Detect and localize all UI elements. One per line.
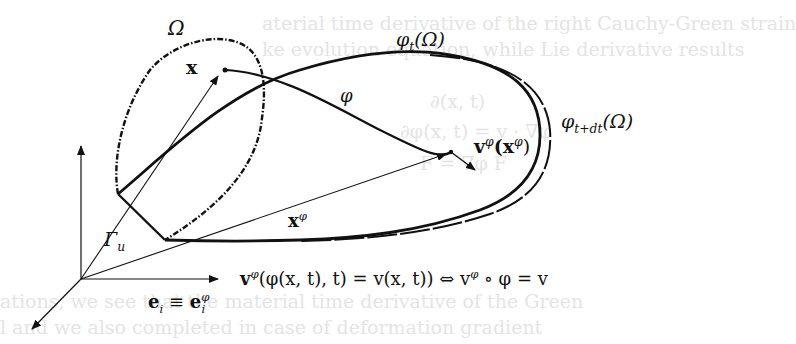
label-phi-t-dt-omega: φt+dt(Ω) (561, 110, 633, 136)
mapping-phi-curve (225, 70, 451, 155)
point-x-phi (449, 150, 453, 154)
phi-curve-tail (451, 152, 475, 170)
equation-velocity-push-forward: vφ(φ(x, t), t) = v(x, t)) ⇔ vφ ∘ φ = v (240, 267, 548, 289)
label-phi-mapping: φ (340, 85, 353, 106)
label-v-phi-x-phi: vφ(xφ) (474, 135, 530, 157)
vector-x (81, 76, 218, 279)
axis-depth (32, 279, 81, 329)
label-x-vector: x (186, 56, 197, 78)
label-omega: Ω (168, 16, 185, 40)
label-basis-vectors: ei ≡ eφi (148, 290, 205, 316)
label-gamma-u: Γu (104, 228, 125, 254)
label-x-phi-vector: xφ (288, 209, 307, 231)
point-x (223, 68, 228, 73)
label-phi-t-omega: φt(Ω) (396, 28, 445, 54)
vector-x-phi (81, 154, 446, 279)
